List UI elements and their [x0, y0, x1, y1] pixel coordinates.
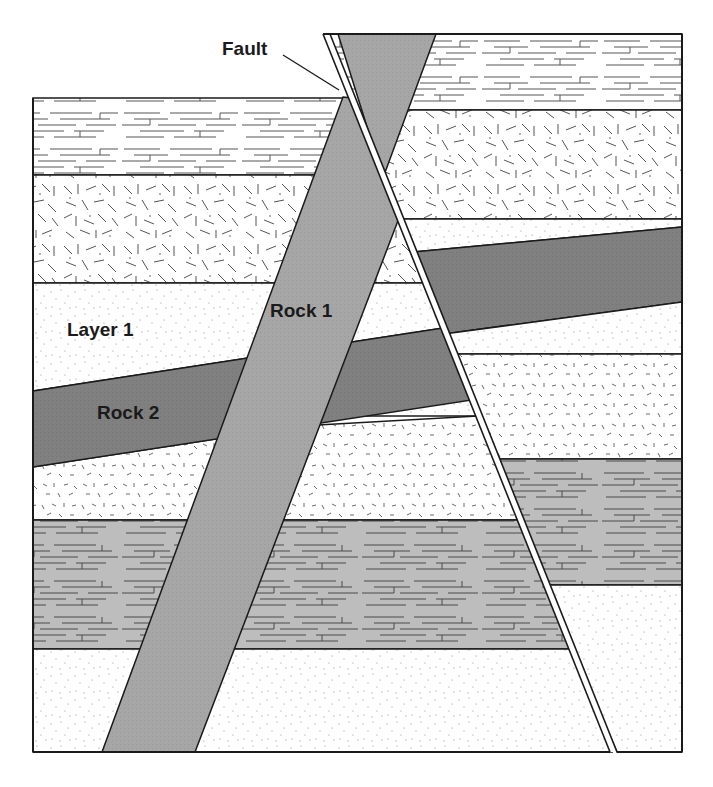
layer-1-label: Layer 1: [67, 319, 134, 340]
fault-label: Fault: [222, 38, 268, 59]
left-shale-layer: [33, 520, 571, 649]
right-granite-layer: [356, 110, 682, 219]
fault-leader-line: [283, 55, 339, 90]
rock-1-label: Rock 1: [270, 300, 333, 321]
geologic-cross-section: Fault Rock 1 Layer 1 Rock 2: [0, 0, 713, 787]
rock-2-label: Rock 2: [97, 402, 159, 423]
